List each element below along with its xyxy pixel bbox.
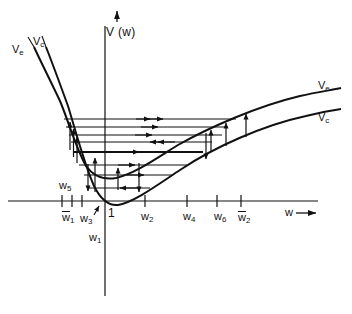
x-tick-label: w1 — [62, 211, 74, 224]
x-axis-label: w — [285, 207, 293, 218]
x-tick-label: w5 — [59, 180, 71, 191]
curve-label-vc-left: Vc — [33, 36, 44, 47]
curve-label-vc-right: Vc — [318, 112, 329, 123]
x-tick-label: w1 — [89, 232, 101, 243]
curve-label-ve-right: Ve — [318, 80, 330, 91]
y-axis-label: V (w) — [106, 26, 136, 38]
x-tick-label: w2 — [238, 211, 250, 224]
origin-tick-label: 1 — [108, 207, 115, 219]
curve-vc — [46, 47, 341, 205]
potential-curve-plot — [0, 0, 352, 314]
curve-ve — [34, 47, 341, 179]
x-tick-label: w6 — [214, 211, 226, 222]
curve-label-ve-left: Ve — [12, 44, 24, 55]
x-tick-label: w4 — [183, 211, 195, 222]
level-direction-arrows — [118, 119, 175, 188]
x-tick-label: w2 — [141, 211, 153, 222]
x-tick-label: w3 — [80, 213, 92, 224]
potential-energy-figure: V (w) w Ve Vc Ve Vc 1 w1w3w5w1w2w4w6w2 — [0, 0, 352, 314]
